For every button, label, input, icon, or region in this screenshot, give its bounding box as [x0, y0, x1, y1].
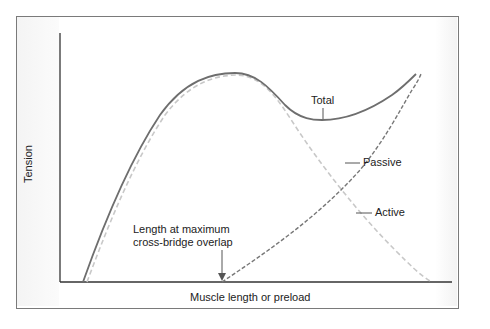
y-axis-label: Tension: [22, 145, 34, 183]
x-axis-label: Muscle length or preload: [190, 291, 310, 303]
passive-label: Passive: [363, 156, 402, 168]
total-label: Total: [311, 94, 334, 106]
length-tension-plot: [0, 0, 490, 329]
active-curve: [87, 75, 430, 282]
annotation-line2: cross-bridge overlap: [133, 236, 233, 248]
active-label: Active: [375, 206, 405, 218]
annotation-line1: Length at maximum: [133, 223, 230, 235]
total-curve: [83, 73, 416, 282]
